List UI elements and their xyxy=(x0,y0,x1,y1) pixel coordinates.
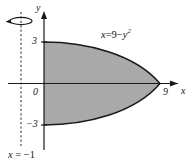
y-axis-arrowhead xyxy=(41,11,47,19)
x-intercept-label-9: 9 xyxy=(163,87,168,97)
curve-equation-label: x=9−y2 xyxy=(101,28,131,40)
y-tick-label-minus-3: −3 xyxy=(26,119,38,129)
rotation-axis-label-rest: = −1 xyxy=(13,149,35,160)
x-axis-arrowhead xyxy=(170,81,178,87)
x-axis-label: x xyxy=(181,86,185,96)
figure-canvas xyxy=(0,0,194,168)
y-axis-label: y xyxy=(36,3,40,13)
rotation-axis-label: x = −1 xyxy=(8,150,35,161)
y-tick-label-3: 3 xyxy=(32,36,37,46)
figure-container: y 3 0 −3 9 x x=9−y2 x = −1 xyxy=(0,0,194,168)
origin-label: 0 xyxy=(33,87,38,97)
revolution-arrow-head xyxy=(6,19,12,23)
curve-eq-exponent: 2 xyxy=(127,27,131,35)
